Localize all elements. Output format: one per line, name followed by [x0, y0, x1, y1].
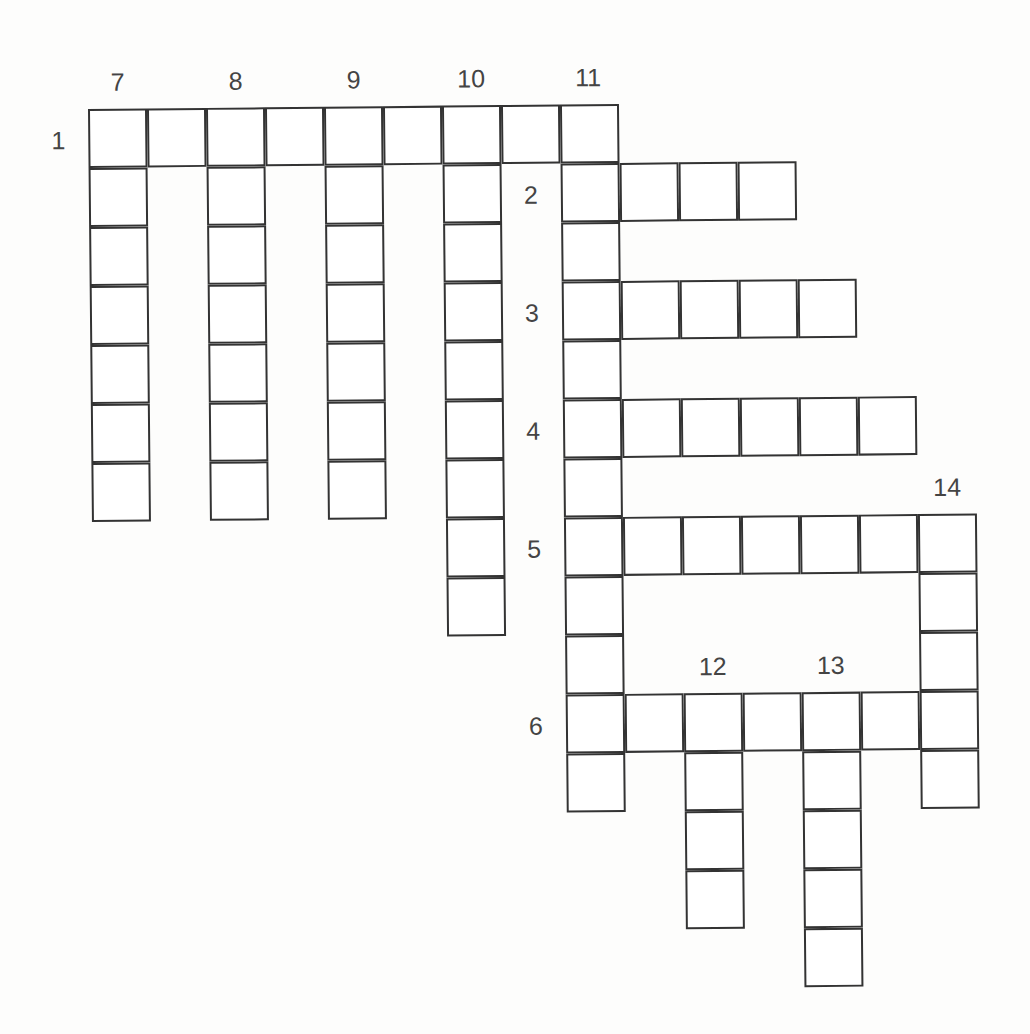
grid-cell[interactable]: [858, 396, 918, 456]
grid-cell[interactable]: [325, 165, 385, 225]
grid-cell[interactable]: [682, 516, 742, 576]
grid-cell[interactable]: [623, 516, 683, 576]
down-clue-number: 14: [933, 475, 961, 500]
grid-cell[interactable]: [685, 811, 745, 871]
grid-cell[interactable]: [443, 164, 503, 224]
down-clue-number: 10: [457, 66, 485, 91]
grid-cell[interactable]: [442, 105, 502, 165]
crossword-grid: 1234567891011121314: [89, 101, 998, 1010]
grid-cell[interactable]: [620, 162, 680, 222]
grid-cell[interactable]: [684, 693, 744, 753]
grid-cell[interactable]: [622, 398, 682, 458]
grid-cell[interactable]: [625, 693, 685, 753]
grid-cell[interactable]: [444, 341, 504, 401]
grid-cell[interactable]: [920, 690, 980, 750]
down-clue-number: 9: [347, 67, 361, 92]
grid-cell[interactable]: [208, 284, 268, 344]
grid-cell[interactable]: [803, 869, 863, 929]
grid-cell[interactable]: [743, 692, 803, 752]
grid-cell[interactable]: [739, 279, 799, 339]
grid-cell[interactable]: [563, 458, 623, 518]
grid-cell[interactable]: [207, 225, 267, 285]
grid-cell[interactable]: [562, 281, 622, 341]
grid-cell[interactable]: [89, 167, 149, 227]
grid-cell[interactable]: [443, 223, 503, 283]
across-clue-number: 2: [524, 183, 538, 208]
grid-cell[interactable]: [919, 631, 979, 691]
grid-cell[interactable]: [804, 928, 864, 988]
grid-cell[interactable]: [91, 462, 151, 522]
grid-cell[interactable]: [326, 283, 386, 343]
grid-cell[interactable]: [680, 280, 740, 340]
grid-cell[interactable]: [209, 461, 269, 521]
grid-cell[interactable]: [802, 751, 862, 811]
grid-cell[interactable]: [90, 285, 150, 345]
grid-cell[interactable]: [738, 161, 798, 221]
across-clue-number: 5: [527, 537, 541, 562]
grid-cell[interactable]: [325, 224, 385, 284]
grid-cell[interactable]: [445, 459, 505, 519]
across-clue-number: 6: [529, 714, 543, 739]
grid-cell[interactable]: [447, 577, 507, 637]
across-clue-number: 4: [526, 419, 540, 444]
grid-cell[interactable]: [920, 749, 980, 809]
grid-cell[interactable]: [324, 106, 384, 166]
grid-cell[interactable]: [564, 517, 624, 577]
grid-cell[interactable]: [859, 514, 919, 574]
grid-cell[interactable]: [798, 279, 858, 339]
grid-cell[interactable]: [803, 810, 863, 870]
grid-cell[interactable]: [799, 397, 859, 457]
grid-cell[interactable]: [560, 104, 620, 164]
grid-cell[interactable]: [802, 692, 862, 752]
grid-cell[interactable]: [327, 460, 387, 520]
grid-cell[interactable]: [566, 753, 626, 813]
grid-cell[interactable]: [208, 343, 268, 403]
grid-cell[interactable]: [327, 401, 387, 461]
grid-cell[interactable]: [147, 108, 207, 168]
grid-cell[interactable]: [501, 104, 561, 164]
grid-cell[interactable]: [685, 870, 745, 930]
grid-cell[interactable]: [89, 226, 149, 286]
grid-cell[interactable]: [566, 694, 626, 754]
down-clue-number: 11: [575, 65, 601, 90]
across-clue-number: 1: [51, 128, 65, 153]
grid-cell[interactable]: [740, 397, 800, 457]
grid-cell[interactable]: [918, 572, 978, 632]
grid-cell[interactable]: [326, 342, 386, 402]
down-clue-number: 13: [817, 653, 845, 678]
grid-cell[interactable]: [861, 691, 921, 751]
down-clue-number: 7: [111, 70, 125, 95]
grid-cell[interactable]: [91, 403, 151, 463]
grid-cell[interactable]: [446, 518, 506, 578]
grid-cell[interactable]: [206, 107, 266, 167]
grid-cell[interactable]: [621, 280, 681, 340]
grid-cell[interactable]: [561, 222, 621, 282]
grid-cell[interactable]: [564, 576, 624, 636]
down-clue-number: 8: [229, 69, 243, 94]
grid-cell[interactable]: [565, 635, 625, 695]
grid-cell[interactable]: [207, 166, 267, 226]
grid-cell[interactable]: [445, 400, 505, 460]
down-clue-number: 12: [699, 654, 727, 679]
grid-cell[interactable]: [562, 340, 622, 400]
grid-cell[interactable]: [679, 162, 739, 222]
grid-cell[interactable]: [90, 344, 150, 404]
grid-cell[interactable]: [563, 399, 623, 459]
grid-cell[interactable]: [918, 513, 978, 573]
grid-cell[interactable]: [383, 106, 443, 166]
grid-cell[interactable]: [88, 108, 148, 168]
across-clue-number: 3: [525, 301, 539, 326]
grid-cell[interactable]: [561, 163, 621, 223]
grid-cell[interactable]: [800, 515, 860, 575]
grid-cell[interactable]: [681, 398, 741, 458]
grid-cell[interactable]: [684, 752, 744, 812]
grid-cell[interactable]: [741, 515, 801, 575]
grid-cell[interactable]: [444, 282, 504, 342]
grid-cell[interactable]: [265, 107, 325, 167]
grid-cell[interactable]: [209, 402, 269, 462]
